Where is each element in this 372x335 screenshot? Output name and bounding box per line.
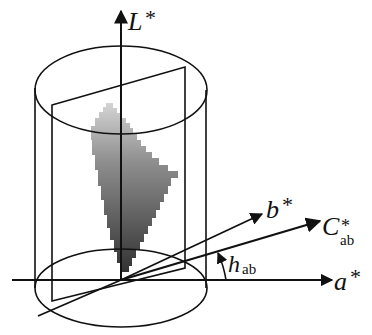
hue-angle-arc [218,253,226,280]
hue-angle-label: h [228,251,240,277]
c-axis-subscript: ab [340,232,354,248]
l-axis-star: * [145,5,156,30]
hue-angle-subscript: ab [242,261,256,277]
b-axis-label: b [266,195,279,224]
c-axis-label: C [322,212,340,241]
l-axis-label: L [127,7,142,36]
b-axis-star: * [282,192,293,217]
a-axis-star: * [350,264,361,289]
a-axis-label: a [334,267,347,296]
cielab-diagram: L * b * C * ab a * h ab [0,0,372,335]
b-axis-negative [38,280,121,316]
